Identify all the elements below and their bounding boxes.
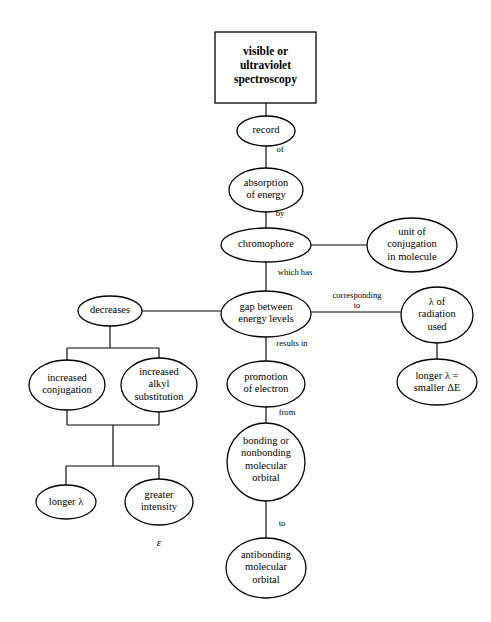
- node-longer-lambda: [36, 485, 96, 519]
- node-decreases: [78, 296, 142, 326]
- edge-label-by: by: [265, 209, 295, 219]
- diagram-canvas: [0, 0, 491, 622]
- node-antibonding-molecular-orbital: [226, 538, 306, 598]
- node-increased-alkyl-substitution: [121, 358, 197, 412]
- node-absorption-of-energy: [229, 168, 303, 212]
- node-record: [237, 116, 295, 146]
- epsilon-symbol: ε: [144, 536, 174, 548]
- concept-map-diagram: visible or ultraviolet spectroscopy reco…: [0, 0, 491, 622]
- edge-label-to: to: [268, 519, 296, 529]
- node-promotion-of-electron: [227, 361, 305, 407]
- node-gap-between-energy-levels: [221, 291, 311, 337]
- edge-label-corresponding-to: corresponding to: [319, 291, 395, 311]
- node-longer-lambda-smaller-delta-e: [397, 359, 477, 405]
- edge-label-which-has: which has: [264, 268, 326, 278]
- node-title-box: [215, 32, 316, 103]
- edge-label-results-in: results in: [264, 339, 320, 349]
- node-greater-intensity: [125, 479, 193, 525]
- node-lambda-of-radiation-used: [401, 287, 473, 343]
- edge-label-from: from: [268, 408, 306, 418]
- node-increased-conjugation: [29, 360, 105, 410]
- edge-label-of: of: [265, 145, 295, 155]
- node-bonding-or-nonbonding-molecular-orbital: [227, 423, 305, 501]
- node-chromophore: [221, 228, 311, 262]
- node-unit-of-conjugation: [367, 218, 457, 272]
- node-shapes: [29, 32, 477, 598]
